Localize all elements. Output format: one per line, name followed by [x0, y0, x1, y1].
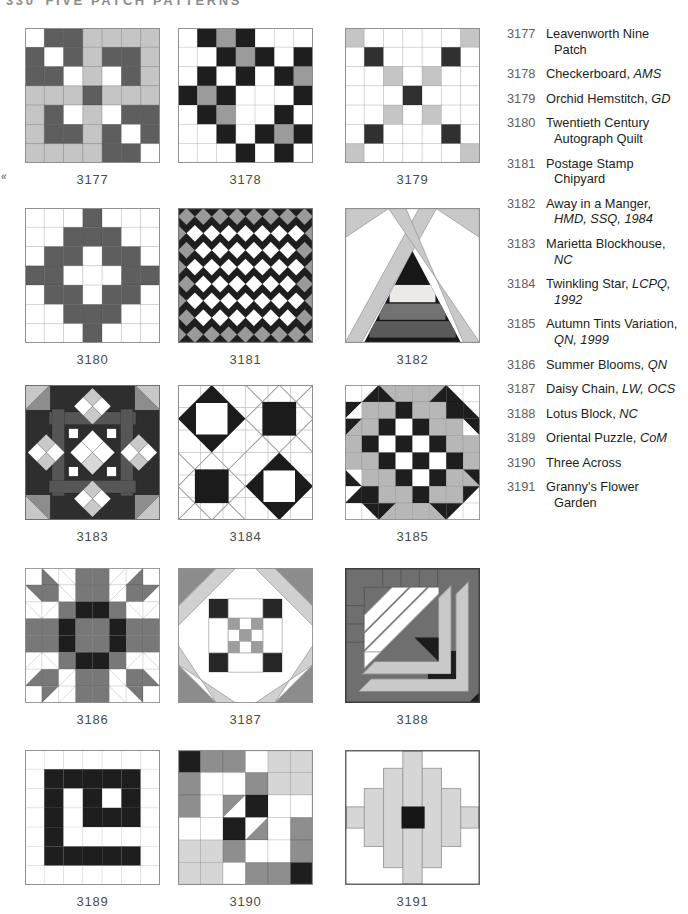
entry-number: 3190: [507, 455, 535, 471]
quilt-block-figure: 3180: [25, 208, 160, 367]
quilt-block-image-3179: [345, 28, 480, 163]
block-number: 3183: [25, 529, 160, 544]
entry-number: 3182: [507, 196, 535, 212]
entry-number: 3186: [507, 357, 535, 373]
index-entry: 3188Lotus Block, NC: [507, 406, 683, 422]
block-number: 3179: [345, 172, 480, 187]
quilt-block-figure: 3183: [25, 385, 160, 544]
entry-name: Checkerboard,: [546, 66, 634, 81]
block-number: 3189: [25, 894, 160, 909]
block-number: 3184: [178, 529, 313, 544]
entry-number: 3191: [507, 479, 535, 495]
quilt-block-figure: 3178: [178, 28, 313, 187]
entry-name: Postage Stamp Chipyard: [546, 156, 634, 187]
quilt-block-figure: 3182: [345, 208, 480, 367]
quilt-block-image-3183: [25, 385, 160, 520]
entry-number: 3180: [507, 115, 535, 131]
quilt-block-figure: 3186: [25, 568, 160, 727]
quilt-block-figure: 3191: [345, 750, 480, 909]
entry-name: Summer Blooms,: [546, 357, 648, 372]
entry-refs: NC: [619, 406, 637, 421]
quilt-block-figure: 3184: [178, 385, 313, 544]
block-number: 3181: [178, 352, 313, 367]
index-entry: 3190Three Across: [507, 455, 683, 471]
index-entry: 3177Leavenworth Nine Patch: [507, 26, 683, 57]
entry-name: Oriental Puzzle,: [546, 430, 640, 445]
entry-refs: QN, 1999: [554, 332, 609, 347]
entry-number: 3183: [507, 236, 535, 252]
entry-number: 3177: [507, 26, 535, 42]
index-entry: 3189Oriental Puzzle, CoM: [507, 430, 683, 446]
quilt-block-image-3188: [345, 568, 480, 703]
quilt-block-figure: 3185: [345, 385, 480, 544]
index-entry: 3187Daisy Chain, LW, OCS: [507, 381, 683, 397]
index-entry: 3180Twentieth Century Autograph Quilt: [507, 115, 683, 146]
index-entry: 3182Away in a Manger, HMD, SSQ, 1984: [507, 196, 683, 227]
entry-name: Away in a Manger,: [546, 196, 651, 211]
index-entry: 3179Orchid Hemstitch, GD: [507, 91, 683, 107]
entry-number: 3178: [507, 66, 535, 82]
index-entry: 3178Checkerboard, AMS: [507, 66, 683, 82]
entry-number: 3185: [507, 316, 535, 332]
entry-number: 3179: [507, 91, 535, 107]
quilt-block-figure: 3181: [178, 208, 313, 367]
entry-refs: LW, OCS: [622, 381, 675, 396]
entry-number: 3187: [507, 381, 535, 397]
block-number: 3187: [178, 712, 313, 727]
block-number: 3182: [345, 352, 480, 367]
entry-name: Lotus Block,: [546, 406, 619, 421]
page-header: 330FIVE PATCH PATTERNS: [6, 0, 326, 7]
pattern-index: 3177Leavenworth Nine Patch3178Checkerboa…: [507, 26, 683, 520]
block-number: 3191: [345, 894, 480, 909]
quilt-block-figure: 3177: [25, 28, 160, 187]
block-number: 3190: [178, 894, 313, 909]
page-header-title: FIVE PATCH PATTERNS: [46, 0, 243, 7]
quilt-block-figure: 3187: [178, 568, 313, 727]
entry-refs: AMS: [634, 66, 662, 81]
index-entry: 3184Twinkling Star, LCPQ, 1992: [507, 276, 683, 307]
quilt-block-image-3178: [178, 28, 313, 163]
quilt-block-image-3190: [178, 750, 313, 885]
index-entry: 3185Autumn Tints Variation, QN, 1999: [507, 316, 683, 347]
quilt-block-image-3186: [25, 568, 160, 703]
quilt-block-figure: 3190: [178, 750, 313, 909]
entry-number: 3184: [507, 276, 535, 292]
entry-name: Granny's Flower Garden: [546, 479, 639, 510]
quilt-block-image-3181: [178, 208, 313, 343]
index-entry: 3186Summer Blooms, QN: [507, 357, 683, 373]
entry-refs: CoM: [640, 430, 667, 445]
entry-name: Daisy Chain,: [546, 381, 622, 396]
block-number: 3177: [25, 172, 160, 187]
entry-number: 3189: [507, 430, 535, 446]
index-entry: 3183Marietta Blockhouse, NC: [507, 236, 683, 267]
page-number: 330: [6, 0, 36, 7]
entry-refs: GD: [651, 91, 670, 106]
book-page: { "page_header": { "page_number": "330",…: [0, 0, 688, 914]
entry-number: 3188: [507, 406, 535, 422]
entry-name: Marietta Blockhouse,: [546, 236, 666, 251]
quilt-block-image-3191: [345, 750, 480, 885]
entry-refs: NC: [554, 252, 572, 267]
quilt-block-image-3184: [178, 385, 313, 520]
index-entry: 3191Granny's Flower Garden: [507, 479, 683, 510]
quilt-block-image-3187: [178, 568, 313, 703]
entry-name: Twinkling Star,: [546, 276, 632, 291]
entry-number: 3181: [507, 156, 535, 172]
entry-refs: QN: [648, 357, 667, 372]
quilt-block-image-3182: [345, 208, 480, 343]
quilt-block-image-3185: [345, 385, 480, 520]
entry-name: Orchid Hemstitch,: [546, 91, 651, 106]
quilt-block-figure: 3179: [345, 28, 480, 187]
quilt-block-figure: 3189: [25, 750, 160, 909]
entry-name: Leavenworth Nine Patch: [546, 26, 649, 57]
index-entry: 3181Postage Stamp Chipyard: [507, 156, 683, 187]
entry-name: Autumn Tints Variation,: [546, 316, 677, 331]
block-number: 3188: [345, 712, 480, 727]
entry-name: Three Across: [546, 455, 621, 470]
block-number: 3186: [25, 712, 160, 727]
entry-refs: HMD, SSQ, 1984: [554, 211, 653, 226]
margin-mark: «: [1, 171, 7, 182]
block-number: 3185: [345, 529, 480, 544]
entry-name: Twentieth Century Autograph Quilt: [546, 115, 649, 146]
quilt-block-image-3189: [25, 750, 160, 885]
